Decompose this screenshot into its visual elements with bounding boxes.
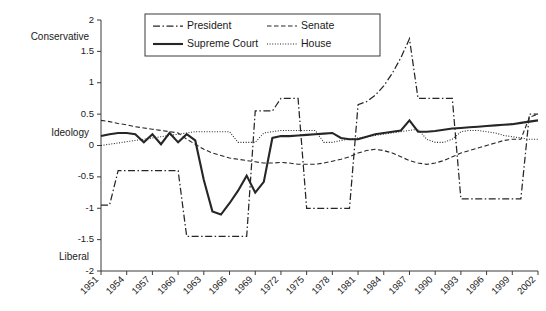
x-tick-label: 1969 [232,274,255,297]
axis-label-ideology: Ideology [51,127,89,138]
series-line-senate [101,114,538,164]
y-tick-label: -1 [86,202,94,213]
legend-label-senate: Senate [301,19,334,31]
series-line-supreme-court [101,120,538,214]
x-tick-label: 1981 [335,274,358,297]
y-tick-label: 0.5 [81,108,94,119]
y-tick-label: -1.5 [78,233,94,244]
y-tick-label: 0 [89,139,94,150]
x-tick-label: 1954 [103,274,126,297]
x-tick-label: 1996 [463,274,486,297]
legend-label-house: House [301,37,332,49]
legend-box [145,14,380,56]
chart-container: 21.510.50-0.5-1-1.5-21951195419571960196… [0,0,546,311]
x-tick-label: 1966 [206,274,229,297]
axis-label-liberal: Liberal [59,251,89,262]
y-tick-label: 1 [89,76,94,87]
x-tick-label: 1960 [155,274,178,297]
x-tick-label: 1957 [129,274,152,297]
x-tick-label: 2002 [515,274,538,297]
y-tick-label: -0.5 [78,170,94,181]
x-tick-label: 1978 [309,274,332,297]
x-tick-label: 1984 [360,274,383,297]
x-tick-label: 1972 [258,274,281,297]
x-tick-label: 1951 [78,274,101,297]
y-tick-label: 1.5 [81,45,94,56]
x-tick-label: 1963 [181,274,204,297]
legend-label-supreme-court: Supreme Court [187,37,258,49]
x-tick-label: 1987 [386,274,409,297]
ideology-line-chart: 21.510.50-0.5-1-1.5-21951195419571960196… [0,0,546,311]
x-tick-label: 1993 [438,274,461,297]
legend-label-president: President [187,19,231,31]
y-tick-label: 2 [89,14,94,25]
axis-label-conservative: Conservative [31,31,90,42]
x-tick-label: 1999 [489,274,512,297]
x-tick-label: 1990 [412,274,435,297]
x-tick-label: 1975 [283,274,306,297]
